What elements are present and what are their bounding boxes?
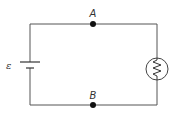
node-b — [90, 102, 96, 108]
circuit-diagram: ε A B — [0, 0, 176, 115]
label-b: B — [90, 90, 97, 101]
emf-label: ε — [6, 60, 11, 71]
label-a: A — [89, 8, 97, 19]
battery-icon — [20, 62, 40, 68]
lamp-icon — [146, 58, 168, 80]
node-a — [90, 21, 96, 27]
